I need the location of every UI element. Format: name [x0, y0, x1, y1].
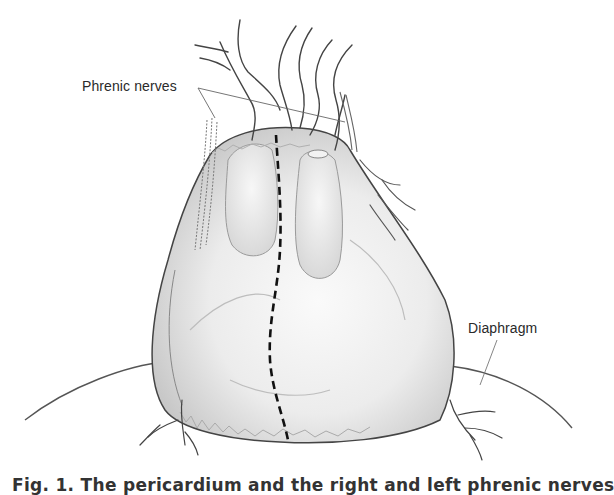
diaphragm-label: Diaphragm — [468, 320, 537, 336]
phrenic-nerves-label: Phrenic nerves — [82, 78, 177, 94]
right-lower-branches — [450, 400, 502, 460]
figure-caption: Fig. 1. The pericardium and the right an… — [12, 475, 614, 495]
superior-vena-cava — [226, 144, 278, 256]
diaphragm-leader-line — [480, 340, 497, 385]
vessel-opening — [308, 150, 328, 158]
aorta — [295, 151, 342, 278]
phrenic-leader-lines — [198, 88, 345, 122]
